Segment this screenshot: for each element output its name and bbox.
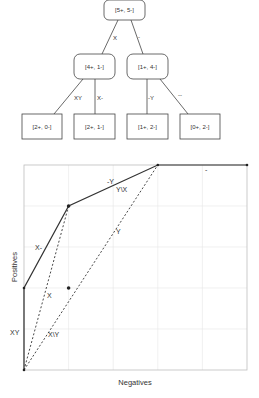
annotation-not: - (205, 166, 208, 173)
edge-label-not-x: - (138, 34, 140, 40)
annotation-x: X (47, 292, 52, 299)
coverage-curve (24, 165, 247, 370)
edge-label-xy: XY (74, 95, 82, 101)
node-x-label: [4+, 1-] (85, 64, 104, 70)
edge-right-leaf4 (160, 79, 188, 114)
edge-label-notx-noty: -- (178, 92, 182, 98)
annotation-noty: -Y (107, 178, 114, 185)
annotation-x-noty: X- (35, 244, 43, 251)
leaf-x-noty-label: [2+, 1-] (85, 124, 104, 130)
grid (24, 165, 247, 370)
point-1-2 (67, 286, 71, 290)
leaf-notx-y-label: [1+, 2-] (138, 124, 157, 130)
point-0-2 (23, 287, 26, 290)
y-axis-label: Positives (10, 252, 19, 282)
point-0-0 (23, 369, 26, 372)
annotation-x-minus-y: X\Y (48, 331, 60, 338)
leaf-notx-noty-label: [0+, 2-] (191, 124, 210, 130)
plot-frame (24, 165, 247, 370)
edge-label-x-noty: X- (97, 95, 103, 101)
point-3-5 (157, 164, 160, 167)
point-5-5 (246, 164, 249, 167)
annotation-xy: XY (10, 329, 20, 336)
root-node-label: [5+, 5-] (115, 7, 134, 13)
edge-label-notx-y: -Y (148, 95, 154, 101)
annotation-y-minus-x: Y\X (116, 186, 128, 193)
coverage-chart: XY X- -Y Y\X - X X\Y Y Negatives Positiv… (10, 164, 248, 387)
point-1-4 (67, 204, 71, 208)
x-axis-label: Negatives (118, 378, 152, 387)
node-not-x-label: [1+, 4-] (138, 64, 157, 70)
edge-root-right (131, 20, 143, 54)
edge-label-x: X (113, 35, 117, 41)
leaf-xy-label: [2+, 0-] (33, 124, 52, 130)
annotation-y: Y (116, 228, 121, 235)
figure: X - XY X- -Y -- [5+, 5-] [4+, 1-] [1+, 4… (0, 0, 259, 398)
decision-tree: X - XY X- -Y -- [5+, 5-] [4+, 1-] [1+, 4… (22, 0, 220, 139)
